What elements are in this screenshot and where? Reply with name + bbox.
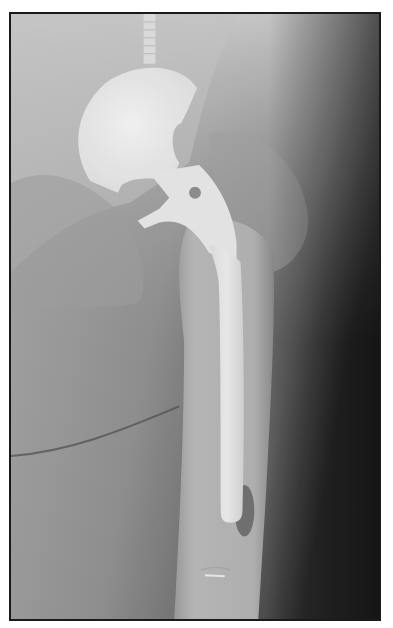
xray-frame [9,12,381,621]
hip-xray-image [11,14,379,619]
